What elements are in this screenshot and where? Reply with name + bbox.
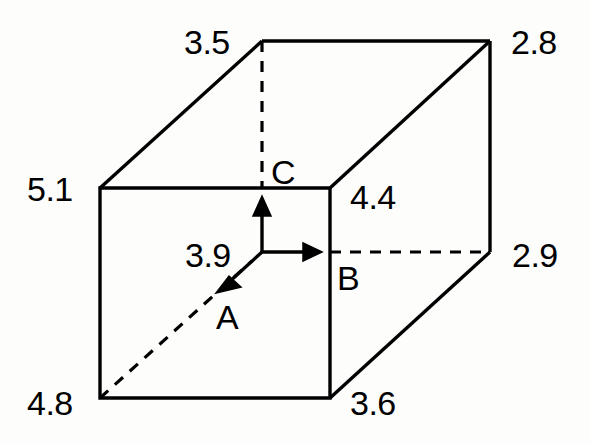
axis-label-c: C — [271, 155, 296, 189]
cuboid-diagram: 3.5 2.8 5.1 4.4 2.9 4.8 3.6 3.9 C B A — [0, 0, 590, 443]
axis-arrow-a-head — [216, 276, 241, 293]
axis-label-a: A — [216, 300, 239, 334]
vertex-label-top-back-left: 3.5 — [184, 25, 230, 59]
edge-top-left-receding — [100, 41, 262, 188]
vertex-label-top-front-right: 4.4 — [350, 180, 396, 214]
vertex-label-bottom-front-left: 4.8 — [27, 386, 73, 420]
edge-top-right-receding — [330, 41, 490, 188]
vertex-label-top-back-right: 2.8 — [511, 25, 557, 59]
vertex-label-top-front-left: 5.1 — [27, 172, 73, 206]
vertex-label-bottom-front-right: 3.6 — [350, 386, 396, 420]
axis-arrow-a-shaft — [228, 252, 262, 283]
vertex-label-bottom-back-right: 2.9 — [512, 238, 558, 272]
cuboid-wireframe — [0, 0, 590, 443]
vertex-label-origin-interior: 3.9 — [185, 238, 231, 272]
axis-label-b: B — [337, 261, 360, 295]
axis-arrow-b-head — [303, 243, 322, 261]
axis-arrow-c-head — [253, 196, 271, 216]
